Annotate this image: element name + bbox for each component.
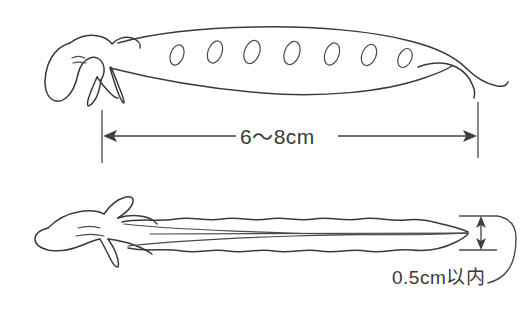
edge-pod-stem-outline — [35, 228, 100, 251]
edge-pod-wavy-lower-margin — [128, 234, 468, 252]
pod-stem — [45, 43, 78, 101]
seed-bulge-6 — [358, 42, 379, 68]
edge-pod-detail-stroke-2 — [76, 235, 104, 237]
calyx-sepal-center — [88, 77, 101, 106]
seed-bulge-4 — [281, 39, 303, 67]
side-view-pod-group — [45, 27, 508, 106]
pod-stem-shoulder — [70, 35, 140, 48]
diagram-root: 6〜8cm 0.5cm以内 — [0, 0, 532, 315]
calyx-detail-stroke-1 — [72, 57, 85, 59]
seed-bulge-1 — [167, 43, 186, 67]
calyx-detail-stroke-2 — [73, 62, 86, 63]
calyx-sepal-left — [78, 57, 104, 80]
length-dimension-label: 6〜8cm — [240, 120, 315, 150]
seed-bulge-7 — [395, 46, 415, 70]
thickness-dimension-label: 0.5cm以内 — [392, 262, 485, 289]
edge-pod-sepal-lower — [100, 239, 118, 267]
seed-bulge-5 — [321, 41, 342, 67]
edge-pod-detail-stroke-1 — [78, 227, 100, 229]
pod-lower-outline — [110, 66, 452, 95]
seed-bulge-3 — [241, 38, 263, 66]
pod-seed-bulges — [167, 38, 415, 70]
edge-view-pod-group — [35, 197, 468, 267]
seed-bulge-2 — [204, 39, 225, 65]
edge-pod-wavy-upper-margin — [122, 218, 468, 232]
edge-pod-stem-shoulder-top — [48, 197, 133, 228]
